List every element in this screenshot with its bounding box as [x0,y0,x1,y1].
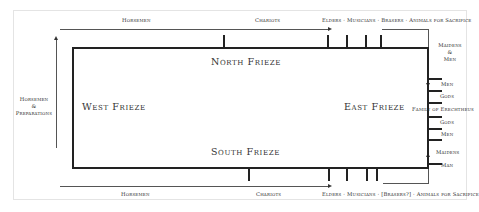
south-tick [328,169,330,181]
east-frieze-title: East Frieze [344,101,405,112]
north-tick [223,35,225,47]
east-tick [429,139,442,141]
west-side-label: Horsemen & Preparations [14,96,54,117]
west-frieze-title: West Frieze [82,101,146,112]
south-tick [376,169,378,181]
south-tick [346,169,348,181]
east-top-line2: & [436,49,464,56]
east-item-gods-2: Gods [440,119,454,125]
north-tick [380,35,382,47]
east-tick [429,90,442,92]
west-label-line2: & [14,103,54,110]
east-bottom-maidens: Maidens [436,149,460,155]
south-tick [366,169,368,181]
east-top-line3: Men [436,56,464,63]
north-frieze-title: North Frieze [211,56,281,67]
north-tick [327,35,329,47]
east-item-men-2: Men [441,131,453,137]
east-tick [429,128,442,130]
north-tick [346,35,348,47]
west-label-line1: Horsemen [14,96,54,103]
east-top-line1: Maidens [436,42,464,49]
east-bottom-man: Man [441,162,453,168]
east-item-family-of-erechtheus: Family of Erechtheus [412,106,474,112]
west-arrowhead-icon [54,36,58,40]
east-top-group-label: Maidens & Men [436,42,464,63]
east-tick [429,78,442,80]
east-tick [429,116,442,118]
south-tick [248,169,250,181]
north-tick [365,35,367,47]
east-item-gods: Gods [440,93,454,99]
east-tick [429,102,442,104]
east-item-men: Men [441,81,453,87]
west-label-line3: Preparations [14,110,54,117]
north-arrowhead-icon [328,27,332,31]
south-arrowhead-icon [328,184,332,188]
south-frieze-title: South Frieze [211,146,280,157]
